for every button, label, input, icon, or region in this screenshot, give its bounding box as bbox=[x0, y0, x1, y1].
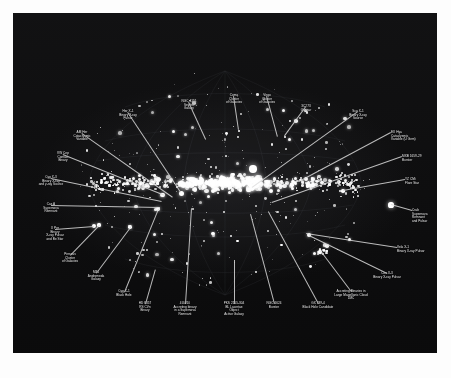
label-yz-cmi: YZ CMi Flare Star bbox=[405, 178, 437, 185]
label-vw-cep: VW Cep Contact Binary bbox=[35, 152, 91, 163]
figure-page: Her X-1 Binary X-ray PulsarNGC 4151 Seyf… bbox=[0, 0, 451, 378]
all-sky-map-plate: Her X-1 Binary X-ray PulsarNGC 4151 Seyf… bbox=[13, 13, 437, 353]
label-lmc: Accreting Binaries in Large Magellanic C… bbox=[323, 290, 379, 301]
label-crab: Crab Supernova Remnant and Pulsar bbox=[412, 209, 437, 224]
label-her-x-1: Her X-1 Binary X-ray Pulsar bbox=[100, 110, 156, 121]
label-vela-x-1: Vela X-1 Binary X-ray Pulsar bbox=[397, 246, 437, 253]
label-cen-x-3: Cen X-3 Binary X-ray Pulsar bbox=[359, 272, 415, 279]
label-gx-339-4: GX 339-4 Black Hole Candidate bbox=[290, 302, 346, 309]
label-m31: M31 Andromeda Galaxy bbox=[68, 271, 124, 282]
label-mxb-1659: MXB 1659-29 Burster bbox=[402, 155, 437, 162]
label-cyg-x-1: Cyg X-1 Black Hole bbox=[96, 290, 152, 297]
label-x-per: X Per Binary X-ray Pulsar and Be Star bbox=[27, 227, 83, 242]
leader-line-pks-2155 bbox=[234, 260, 235, 304]
label-sco-x-1: Sco X-1 Binary X-ray Source bbox=[330, 110, 386, 121]
label-perseus: Perseus Cluster of Galaxies bbox=[42, 253, 98, 264]
label-virgo-cluster: Virgo Cluster of Galaxies bbox=[239, 94, 295, 105]
label-ex-hya: EX Hya Cataclysmic Variable (U Gem) bbox=[391, 131, 437, 142]
label-cas-a: Cas A Supernova Remnant bbox=[23, 203, 79, 214]
label-3c273: 3C273 Quasar bbox=[278, 105, 334, 112]
label-4u-1820: 4U4/10 Accreting binary in a Supernova R… bbox=[157, 302, 213, 317]
label-am-her: AM Her Cataclysmic Variable bbox=[54, 131, 110, 142]
label-cyg-x-3: Cyg X-3 Binary X-ray and γ-ray Source bbox=[23, 176, 79, 187]
